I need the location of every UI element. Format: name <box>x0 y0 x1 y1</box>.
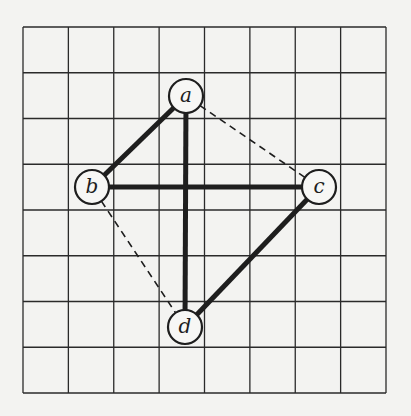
node-label: a <box>180 83 192 107</box>
edge-a-d <box>185 113 186 310</box>
node-c: c <box>302 170 336 204</box>
node-label: b <box>86 174 99 198</box>
edge-c-d <box>197 199 307 314</box>
node-d: d <box>168 310 202 344</box>
edge-a-c <box>200 106 305 178</box>
node-a: a <box>169 79 203 113</box>
graph-diagram: abcd <box>0 0 411 416</box>
node-label: c <box>313 174 324 198</box>
node-label: d <box>179 314 192 338</box>
node-b: b <box>75 170 109 204</box>
grid <box>23 27 386 393</box>
edge-b-d <box>101 201 175 313</box>
